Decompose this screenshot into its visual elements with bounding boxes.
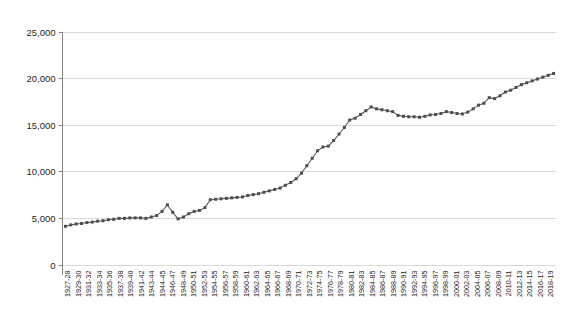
data-point [102,219,105,222]
data-point [241,195,244,198]
x-tick-label: 1978-79 [336,271,345,297]
data-point [316,149,319,152]
x-tick-label: 1992-93 [410,271,419,297]
data-point [91,221,94,224]
data-point [531,79,534,82]
x-tick-label: 1950-51 [189,271,198,297]
data-point [450,111,453,114]
data-point [359,113,362,116]
x-tick-label: 1956-57 [221,271,230,297]
x-tick-label: 2000-01 [452,271,461,297]
data-point [107,218,110,221]
data-point [273,188,276,191]
data-point [246,194,249,197]
x-tick-label: 2016-17 [536,271,545,297]
data-point [370,105,373,108]
data-point [230,196,233,199]
x-tick-label: 2002-03 [462,271,471,297]
data-point [439,112,442,115]
y-tick-label: 5,000 [32,213,56,224]
data-point [144,217,147,220]
data-point [139,216,142,219]
data-point [552,72,555,75]
data-point [332,139,335,142]
x-tick-label: 2014-15 [525,271,534,297]
x-tick-label: 1933-34 [95,271,104,297]
x-tick-label: 1986-87 [378,271,387,297]
x-tick-label: 1931-32 [84,271,93,297]
x-tick-label: 1927-28 [63,271,72,297]
data-point [525,81,528,84]
data-point [279,187,282,190]
data-point [477,104,480,107]
data-point [541,76,544,79]
x-tick-label: 1966-67 [273,271,282,297]
x-tick-label: 1944-45 [158,271,167,297]
x-tick-label: 1929-30 [74,271,83,297]
x-tick-label: 1982-83 [357,271,366,297]
data-point [407,115,410,118]
data-point [547,74,550,77]
data-point [338,133,341,136]
x-tick-label: 2006-07 [483,271,492,297]
data-point [150,215,153,218]
data-point [80,222,83,225]
y-tick-label: 0 [50,260,55,271]
y-axis: 05,00010,00015,00020,00025,000 [26,27,62,275]
data-point [209,198,212,201]
data-point [509,89,512,92]
data-point [418,116,421,119]
x-tick-label: 2012-13 [515,271,524,297]
x-tick-label: 1948-49 [179,271,188,297]
data-point [262,191,265,194]
chart-page: 05,00010,00015,00020,00025,000 1927-2819… [0,0,566,314]
data-point [198,209,201,212]
data-point [155,214,158,217]
data-point [118,217,121,220]
data-point [171,211,174,214]
data-point [348,119,351,122]
data-point [75,222,78,225]
data-point [445,110,448,113]
x-tick-label: 1984-85 [368,271,377,297]
data-point [354,117,357,120]
data-point [493,97,496,100]
y-tick-label: 10,000 [26,166,55,177]
x-tick-label: 1946-47 [168,271,177,297]
chart-canvas: 05,00010,00015,00020,00025,000 1927-2819… [0,0,566,314]
data-point [187,212,190,215]
x-tick-label: 1960-61 [242,271,251,297]
data-point [364,109,367,112]
data-point [112,218,115,221]
x-tick-label: 1937-38 [116,271,125,297]
data-point [423,115,426,118]
data-point [413,115,416,118]
x-tick-label: 1988-89 [389,271,398,297]
data-point [64,225,67,228]
x-tick-label: 1994-95 [420,271,429,297]
x-tick-label: 2004-05 [473,271,482,297]
series-line [65,73,553,226]
y-tick-label: 15,000 [26,120,55,131]
data-point [305,164,308,167]
data-point [177,217,180,220]
x-tick-label: 1941-42 [137,271,146,297]
data-point [536,78,539,81]
x-tick-label: 1943-44 [147,271,156,297]
data-point [284,184,287,187]
x-tick-label: 1970-71 [294,271,303,297]
x-tick-label: 1954-55 [210,271,219,297]
data-point [193,210,196,213]
data-point [128,216,131,219]
x-tick-label: 1990-91 [399,271,408,297]
data-point [214,198,217,201]
data-point [321,146,324,149]
data-point [123,217,126,220]
x-tick-label: 1996-97 [431,271,440,297]
data-point [134,216,137,219]
data-point [311,157,314,160]
data-point [85,221,88,224]
data-point [375,107,378,110]
x-tick-label: 2010-11 [504,270,513,296]
x-tick-label: 1952-53 [200,271,209,297]
